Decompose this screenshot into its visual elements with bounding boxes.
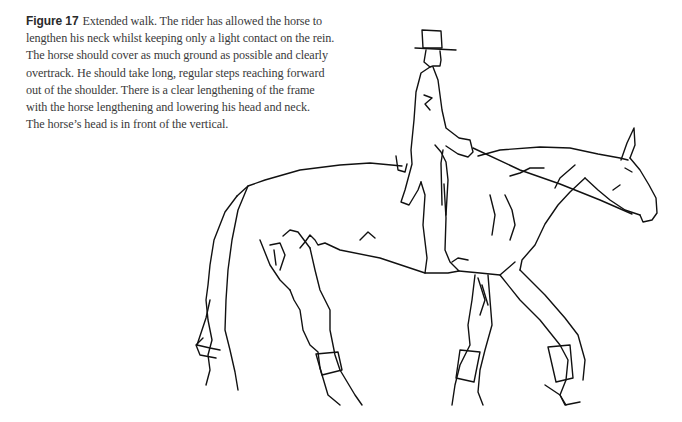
rider (396, 50, 473, 273)
rider-top-hat (415, 30, 456, 50)
horse-and-rider-illustration (0, 0, 682, 422)
